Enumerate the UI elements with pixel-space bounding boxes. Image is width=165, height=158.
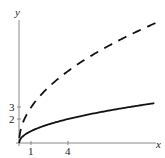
y-axis-label: y [14,6,20,18]
x-axis-label: x [155,138,161,150]
xtick-label-4: 4 [65,145,71,157]
dashed-curve [19,23,157,138]
ytick-label-2: 2 [9,113,15,125]
solid-curve [19,103,154,143]
xtick-label-1: 1 [28,145,34,157]
ytick-label-3: 3 [9,101,15,113]
chart: y x 1 4 2 3 [0,0,165,158]
